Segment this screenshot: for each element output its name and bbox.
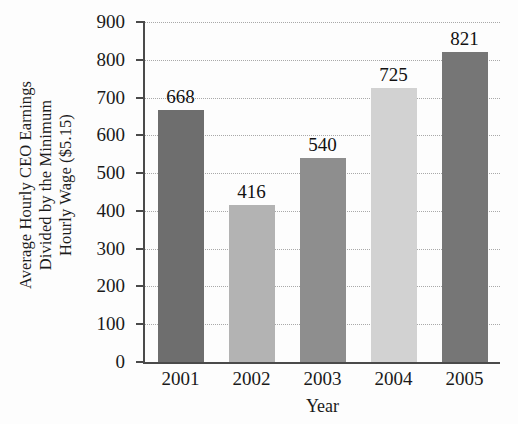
y-axis-tick: 300 [136,248,145,250]
y-axis-tick-label: 800 [97,49,126,68]
y-axis-tick-label: 100 [97,314,126,333]
y-axis-tick: 400 [136,210,145,212]
y-axis-tick: 100 [136,323,145,325]
bar-slot: 725 [358,22,429,362]
y-axis-title: Average Hourly CEO Earnings Divided by t… [8,9,84,361]
x-axis-tick-label: 2001 [145,368,216,390]
bar-slot: 416 [216,22,287,362]
bar-value-label: 668 [166,87,195,106]
x-axis-title: Year [145,396,500,417]
y-axis-tick-label: 0 [116,352,126,371]
page-bleed-text [352,0,512,9]
bar-series: 668416540725821 [145,22,500,362]
y-axis-tick-label: 200 [97,276,126,295]
y-axis-tick-label: 600 [97,125,126,144]
y-axis-tick-label: 900 [97,12,126,31]
x-axis-tick-labels: 20012002200320042005 [145,368,500,390]
y-axis-title-line-3: Hourly Wage ($5.15) [56,114,76,256]
bar-value-label: 540 [308,135,337,154]
x-axis-tick-label: 2005 [429,368,500,390]
y-axis-tick-label: 300 [97,238,126,257]
y-axis-tick-label: 500 [97,163,126,182]
bar-slot: 668 [145,22,216,362]
y-axis-tick: 600 [136,134,145,136]
bar-chart-figure: Average Hourly CEO Earnings Divided by t… [0,0,518,424]
bar-slot: 540 [287,22,358,362]
bar-value-label: 416 [237,182,266,201]
bar-slot: 821 [429,22,500,362]
bar: 416 [229,205,275,362]
y-axis-tick-label: 400 [97,200,126,219]
x-axis-tick-label: 2004 [358,368,429,390]
y-axis-tick: 500 [136,172,145,174]
y-axis-tick: 800 [136,59,145,61]
bar-value-label: 725 [379,65,408,84]
bar: 725 [371,88,417,362]
x-axis-tick-label: 2002 [216,368,287,390]
y-axis-tick: 700 [136,97,145,99]
y-axis-tick: 200 [136,285,145,287]
bar-value-label: 821 [450,29,479,48]
y-axis-tick: 0 [136,361,145,363]
plot-area: 0100200300400500600700800900 66841654072… [143,22,500,364]
x-axis-line [143,362,500,364]
x-axis-tick-label: 2003 [287,368,358,390]
bar: 540 [300,158,346,362]
y-axis-tick-label: 700 [97,87,126,106]
y-axis-title-line-1: Average Hourly CEO Earnings [16,81,36,289]
bar: 821 [442,52,488,362]
y-axis-tick: 900 [136,21,145,23]
bar: 668 [158,110,204,362]
y-axis-title-line-2: Divided by the Minimum [36,100,56,270]
